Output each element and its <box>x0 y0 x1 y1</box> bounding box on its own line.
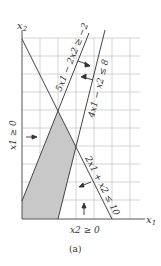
figure-caption: (a) <box>69 244 81 254</box>
arrow-c1-icon <box>78 61 90 67</box>
arrow-x1-icon <box>26 135 37 139</box>
feasible-region <box>22 111 76 219</box>
constraint-label-c3: 2x1 + x2 ≤ 10 <box>83 153 122 217</box>
arrow-x2-icon <box>82 203 86 215</box>
arrow-c3-icon <box>79 182 91 187</box>
constraint-label-c5: x2 ≥ 0 <box>70 225 100 235</box>
constraint-label-c1: 5x1 − 2x2 ≥ −2 <box>54 21 91 93</box>
lp-feasible-region-diagram: x2 x1 5x1 − 2x2 ≥ −2 4x1 − x2 ≤ 8 2x1 + … <box>0 0 161 266</box>
constraint-label-c4: x1 ≥ 0 <box>8 120 18 150</box>
arrow-c2-icon <box>81 74 93 80</box>
x-axis-label: x1 <box>146 214 156 227</box>
y-axis-label: x2 <box>17 20 28 33</box>
